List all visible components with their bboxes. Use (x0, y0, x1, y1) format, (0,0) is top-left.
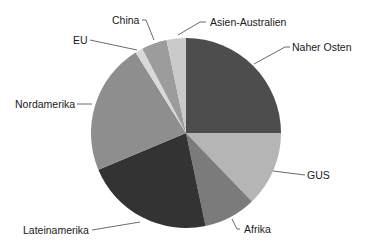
label-nordamerika: Nordamerika (15, 98, 75, 110)
label-naher-osten: Naher Osten (292, 41, 352, 53)
label-eu: EU (73, 34, 88, 46)
leader-china (142, 20, 154, 40)
pie-slices (91, 38, 281, 228)
label-china: China (112, 14, 140, 26)
leader-eu (90, 40, 137, 50)
label-gus: GUS (307, 169, 330, 181)
slice-naher-osten (186, 38, 281, 133)
leader-naher-osten (254, 47, 290, 64)
leader-asien-australien (178, 22, 206, 35)
label-asien-australien: Asien-Australien (210, 16, 287, 28)
pie-chart: Naher Osten GUS Afrika Lateinamerika Nor… (0, 0, 365, 248)
leader-lateinamerika (92, 222, 140, 230)
label-lateinamerika: Lateinamerika (23, 224, 89, 236)
leader-afrika (232, 219, 240, 229)
leader-gus (273, 171, 305, 175)
label-afrika: Afrika (244, 223, 271, 235)
